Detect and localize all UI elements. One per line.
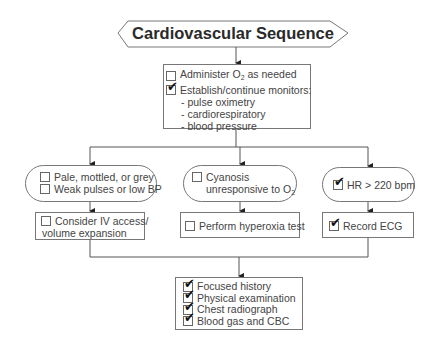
line2-text: unresponsive to O — [206, 183, 291, 195]
condition-item: Pale, mottled, or grey — [40, 171, 156, 183]
weak-pulses-label: Weak pulses or low BP — [54, 183, 162, 195]
action-hyperoxia-test: Perform hyperoxia test — [180, 212, 300, 238]
eval-item: Chest radiograph — [183, 304, 302, 316]
action-item: Record ECG — [329, 220, 413, 232]
action-iv-access: Consider IV access/ volume expansion — [35, 212, 145, 240]
condition-item: Weak pulses or low BP — [40, 183, 156, 195]
action-item: Consider IV access/ — [41, 215, 144, 227]
condition-poor-perfusion: Pale, mottled, or grey Weak pulses or lo… — [25, 165, 157, 202]
cyanosis-label: Cyanosis — [206, 171, 249, 183]
eval-item: Focused history — [183, 281, 302, 293]
monitors-label: Establish/continue monitors: — [180, 84, 311, 96]
iv-access-label: Consider IV access/ — [55, 215, 148, 227]
top-item-monitors: Establish/continue monitors: — [166, 84, 310, 96]
condition-tachycardia: HR > 220 bpm — [322, 167, 415, 202]
focused-history-label: Focused history — [197, 281, 271, 293]
hyperoxia-label: Perform hyperoxia test — [199, 220, 305, 232]
page-title: Cardiovascular Sequence — [118, 20, 348, 47]
checkbox-blood-gas[interactable] — [183, 316, 193, 326]
checkbox-ecg[interactable] — [329, 221, 339, 231]
condition-item: Cyanosis — [192, 171, 296, 183]
checkbox-cyanosis[interactable] — [192, 172, 202, 182]
cyanosis-line2: unresponsive to O2 — [192, 183, 296, 199]
subscript: 2 — [291, 189, 295, 196]
bullet-blood-pressure: - blood pressure — [166, 120, 310, 132]
chest-radiograph-label: Chest radiograph — [197, 304, 278, 316]
initial-steps-box: Administer O2 as needed Establish/contin… — [163, 64, 311, 129]
ecg-label: Record ECG — [343, 220, 403, 232]
iv-access-label-line2: volume expansion — [41, 227, 144, 239]
label-suffix: as needed — [245, 68, 297, 80]
label-text: Administer O — [180, 68, 241, 80]
pale-label: Pale, mottled, or grey — [54, 171, 154, 183]
administer-o2-label: Administer O2 as needed — [180, 68, 297, 84]
top-item-administer-o2: Administer O2 as needed — [166, 68, 310, 84]
action-record-ecg: Record ECG — [322, 212, 414, 238]
condition-item: HR > 220 bpm — [333, 179, 414, 191]
checkbox-weak-pulses[interactable] — [40, 184, 50, 194]
checkbox-hr[interactable] — [333, 180, 343, 190]
evaluation-box: Focused history Physical examination Che… — [175, 277, 303, 330]
action-item: Perform hyperoxia test — [185, 220, 299, 232]
bullet-cardiorespiratory: - cardiorespiratory — [166, 108, 310, 120]
checkbox-pale[interactable] — [40, 172, 50, 182]
bullet-pulse-oximetry: - pulse oximetry — [166, 96, 310, 108]
eval-item: Blood gas and CBC — [183, 316, 302, 328]
checkbox-monitors[interactable] — [166, 85, 176, 95]
checkbox-hyperoxia[interactable] — [185, 221, 195, 231]
blood-gas-label: Blood gas and CBC — [197, 316, 289, 328]
checkbox-iv-access[interactable] — [41, 216, 51, 226]
hr-label: HR > 220 bpm — [347, 179, 415, 191]
condition-cyanosis: Cyanosis unresponsive to O2 — [183, 165, 297, 202]
